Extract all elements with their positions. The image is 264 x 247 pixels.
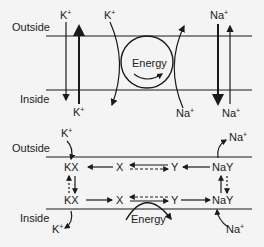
energy-label: Energy xyxy=(132,57,167,69)
svg-text:K+: K+ xyxy=(61,127,72,139)
svg-text:Outside: Outside xyxy=(12,21,50,33)
svg-text:K+: K+ xyxy=(60,9,71,21)
y-carrier-label: Y xyxy=(171,194,179,206)
svg-text:Energy: Energy xyxy=(131,213,166,225)
svg-text:Na+: Na+ xyxy=(176,107,194,119)
svg-text:Outside: Outside xyxy=(12,142,50,154)
kx-complex-label: KX xyxy=(64,194,79,206)
energy-arrow xyxy=(134,74,162,79)
svg-text:NaY: NaY xyxy=(212,194,234,206)
top-panel: Outside Inside K+ K+ K+ Energy Na+ Na+ N… xyxy=(12,9,252,119)
svg-text:NaY: NaY xyxy=(212,161,234,173)
bottom-panel: Outside Inside K+ KX KX K+ X Y NaY Na+ X… xyxy=(12,127,252,235)
x-carrier-label: X xyxy=(116,161,124,173)
outside-label: Outside xyxy=(12,21,50,33)
na-ion-label: Na xyxy=(226,223,241,235)
na-ion-label: Na xyxy=(176,107,191,119)
na-ion-label: Na xyxy=(210,9,225,21)
svg-text:Inside: Inside xyxy=(20,93,49,105)
svg-text:X: X xyxy=(116,194,124,206)
inside-label: Inside xyxy=(20,93,49,105)
svg-text:K+: K+ xyxy=(104,9,115,21)
energy-label: Energy xyxy=(131,213,166,225)
k-pump-inward-arrow xyxy=(110,22,120,105)
na-ion-label: Na xyxy=(222,107,237,119)
y-carrier-label: Y xyxy=(171,161,179,173)
na-pump-outward-arrow xyxy=(174,26,184,108)
svg-text:Energy: Energy xyxy=(132,57,167,69)
k-binding-arrow xyxy=(67,141,72,159)
na-release-arrow xyxy=(218,140,226,158)
svg-text:Y: Y xyxy=(171,161,179,173)
kx-complex-label: KX xyxy=(64,161,79,173)
svg-text:K+: K+ xyxy=(52,223,63,235)
svg-text:K+: K+ xyxy=(73,106,84,118)
k-release-arrow xyxy=(65,211,72,228)
nay-complex-label: NaY xyxy=(212,194,234,206)
svg-text:Na+: Na+ xyxy=(226,223,244,235)
svg-text:Na+: Na+ xyxy=(222,107,240,119)
nay-complex-label: NaY xyxy=(212,161,234,173)
svg-text:Y: Y xyxy=(171,194,179,206)
svg-text:Inside: Inside xyxy=(20,212,49,224)
svg-text:KX: KX xyxy=(64,194,79,206)
inside-label: Inside xyxy=(20,212,49,224)
svg-text:KX: KX xyxy=(64,161,79,173)
outside-label: Outside xyxy=(12,142,50,154)
na-ion-label: Na xyxy=(229,131,244,143)
svg-text:X: X xyxy=(116,161,124,173)
svg-text:Na+: Na+ xyxy=(210,9,228,21)
sodium-potassium-pump-diagram: Outside Inside K+ K+ K+ Energy Na+ Na+ N… xyxy=(0,0,264,247)
svg-text:Na+: Na+ xyxy=(229,131,247,143)
x-carrier-label: X xyxy=(116,194,124,206)
